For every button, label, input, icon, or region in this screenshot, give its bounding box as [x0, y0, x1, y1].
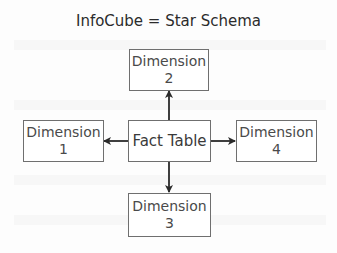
- dimension-number: 1: [59, 141, 68, 158]
- fact-table-label: Fact Table: [132, 133, 206, 150]
- dimension-label: Dimension: [239, 124, 313, 141]
- dimension-number: 2: [165, 70, 174, 87]
- dimension-4-box: Dimension 4: [236, 120, 317, 162]
- dimension-2-box: Dimension 2: [129, 49, 209, 91]
- dimension-number: 4: [272, 141, 281, 158]
- dimension-number: 3: [165, 215, 174, 232]
- dimension-3-box: Dimension 3: [128, 193, 211, 237]
- dimension-label: Dimension: [26, 124, 100, 141]
- dimension-label: Dimension: [132, 53, 206, 70]
- fact-table-box: Fact Table: [128, 120, 211, 162]
- dimension-label: Dimension: [132, 198, 206, 215]
- dimension-1-box: Dimension 1: [23, 120, 104, 162]
